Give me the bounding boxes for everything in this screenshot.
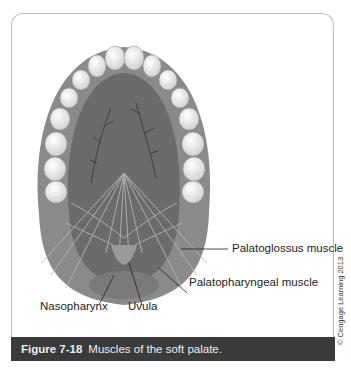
figure-caption: Figure 7-18Muscles of the soft palate. (11, 337, 335, 361)
copyright-credit: © Cengage Learning 2013 (336, 257, 345, 345)
label-uvula: Uvula (128, 300, 157, 312)
label-palatoglossus: Palatoglossus muscle (232, 242, 343, 254)
soft-palate-illustration (11, 13, 334, 337)
label-palatopharyngeal: Palatopharyngeal muscle (189, 276, 318, 288)
label-nasopharynx: Nasopharynx (40, 300, 108, 312)
figure-title: Muscles of the soft palate. (88, 343, 222, 355)
figure-number: Figure 7-18 (21, 343, 82, 355)
